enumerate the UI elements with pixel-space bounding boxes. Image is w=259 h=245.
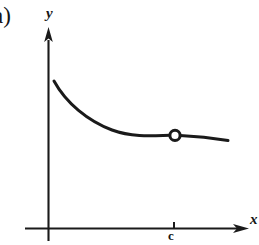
- figure-container: a) y x c: [0, 0, 259, 245]
- x-axis-label: x: [250, 212, 258, 227]
- curve-left-branch: [54, 81, 170, 136]
- open-circle-point: [170, 130, 180, 140]
- y-axis-label: y: [46, 6, 53, 21]
- figure-part-label: a): [0, 4, 11, 27]
- x-tick-label-c: c: [168, 229, 174, 242]
- graph-canvas: [0, 0, 259, 245]
- curve-right-branch: [180, 136, 228, 141]
- y-axis-arrowhead-icon: [44, 27, 53, 42]
